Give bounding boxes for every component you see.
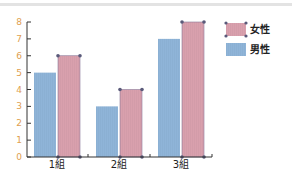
- bar-male-1[interactable]: [34, 73, 56, 157]
- selection-handle[interactable]: [78, 54, 82, 58]
- y-tick-label: 7: [16, 34, 22, 44]
- y-axis: 012345678: [16, 17, 31, 162]
- selection-handle[interactable]: [224, 21, 227, 24]
- selection-handle[interactable]: [244, 21, 247, 24]
- bar-female-1[interactable]: [58, 56, 80, 157]
- bars: [34, 20, 206, 159]
- selection-handle[interactable]: [244, 34, 247, 37]
- selection-handle[interactable]: [140, 88, 144, 92]
- bar-female-3[interactable]: [182, 22, 204, 157]
- legend-item-male[interactable]: 男性: [226, 43, 270, 56]
- legend: 女性男性: [224, 21, 270, 56]
- y-tick-label: 8: [16, 17, 22, 27]
- y-tick-label: 3: [16, 101, 22, 111]
- y-tick-label: 2: [16, 118, 22, 128]
- x-category-label: 2組: [111, 158, 127, 170]
- legend-label: 女性: [250, 23, 270, 35]
- bar-male-3[interactable]: [158, 39, 180, 157]
- legend-swatch: [226, 43, 246, 56]
- bar-female-2[interactable]: [120, 90, 142, 158]
- bar-chart[interactable]: 0123456781組2組3組女性男性: [0, 0, 292, 172]
- selection-handle[interactable]: [180, 20, 184, 24]
- selection-handle[interactable]: [224, 34, 227, 37]
- y-tick-label: 5: [16, 68, 22, 78]
- selection-handle[interactable]: [118, 88, 122, 92]
- y-tick-label: 0: [16, 152, 22, 162]
- y-tick-label: 4: [16, 85, 22, 95]
- x-category-label: 1組: [49, 158, 65, 170]
- selection-handle[interactable]: [56, 54, 60, 58]
- selection-handle[interactable]: [202, 20, 206, 24]
- legend-item-female[interactable]: 女性: [224, 21, 270, 37]
- y-tick-label: 1: [16, 135, 22, 145]
- bar-male-2[interactable]: [96, 106, 118, 157]
- legend-label: 男性: [250, 43, 270, 55]
- legend-swatch: [226, 23, 246, 36]
- y-tick-label: 6: [16, 51, 22, 61]
- x-category-label: 3組: [173, 158, 189, 170]
